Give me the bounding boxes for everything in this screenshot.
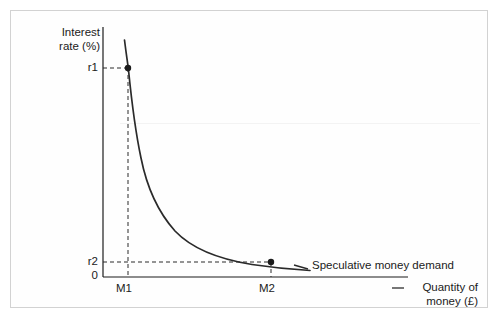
curve-label-leader-line (294, 265, 308, 269)
curve-annotation-label: Speculative money demand (312, 259, 454, 273)
y-axis-label: Interest rate (%) (44, 26, 100, 53)
origin-label: 0 (80, 269, 98, 283)
y-axis-label-line-2: rate (%) (44, 40, 100, 54)
y-tick-label-r1: r1 (80, 61, 98, 75)
x-axis-label: Quantity of money (£) (338, 281, 478, 308)
x-axis-label-line-2: money (£) (338, 295, 478, 309)
x-axis-label-line-1: Quantity of (338, 281, 478, 295)
figure-canvas: Interest rate (%) Quantity of money (£) … (0, 0, 500, 320)
y-tick-label-r2: r2 (80, 255, 98, 269)
x-tick-label-m2: M2 (259, 282, 275, 296)
x-tick-label-m1: M1 (116, 282, 132, 296)
data-point-r2-m2 (268, 259, 274, 265)
data-point-r1-m1 (125, 65, 131, 71)
y-axis-label-line-1: Interest (44, 26, 100, 40)
speculative-money-demand-curve (125, 40, 311, 271)
